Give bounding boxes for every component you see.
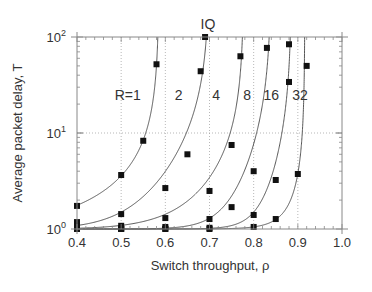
x-tick-label: 0.7 — [200, 235, 218, 250]
data-marker — [286, 41, 292, 47]
series-label: R=1 — [115, 87, 141, 103]
data-marker — [229, 142, 235, 148]
x-axis-label: Switch throughput, ρ — [151, 258, 270, 273]
data-marker — [264, 45, 270, 51]
curve-r-4 — [77, 37, 242, 228]
data-marker — [273, 216, 279, 222]
data-marker — [207, 188, 213, 194]
data-marker — [140, 138, 146, 144]
series-label: 2 — [175, 87, 183, 103]
data-marker — [251, 212, 257, 218]
data-marker — [286, 79, 292, 85]
data-marker — [198, 68, 204, 74]
curve-r-32 — [77, 37, 305, 229]
y-axis-label: Average packet delay, T — [10, 64, 25, 203]
curves — [77, 37, 305, 229]
data-marker — [304, 63, 310, 69]
x-tick-label: 1.0 — [333, 235, 351, 250]
data-marker — [154, 61, 160, 67]
series-label: 32 — [292, 87, 308, 103]
chart-title: IQ — [201, 16, 216, 32]
curve-r-1 — [77, 37, 158, 205]
data-marker — [237, 53, 243, 59]
curve-r-16 — [77, 37, 290, 229]
data-marker — [162, 215, 168, 221]
y-tick-label: 102 — [47, 28, 66, 45]
x-tick-label: 0.9 — [289, 235, 307, 250]
series-label: 16 — [264, 87, 280, 103]
data-marker — [251, 168, 257, 174]
y-tick-label: 100 — [47, 220, 66, 237]
data-marker — [118, 172, 124, 178]
chart-container: IQ 0.40.50.60.70.80.91.0 100101102 R=124… — [0, 0, 372, 292]
data-marker — [273, 177, 279, 183]
data-marker — [229, 204, 235, 210]
y-tick-label: 101 — [47, 124, 66, 141]
data-marker — [295, 171, 301, 177]
x-tick-label: 0.8 — [245, 235, 263, 250]
x-tick-label: 0.4 — [68, 235, 86, 250]
series-label: 8 — [243, 87, 251, 103]
x-tick-label: 0.6 — [156, 235, 174, 250]
series-label: 4 — [212, 87, 220, 103]
data-marker — [184, 151, 190, 157]
x-tick-label: 0.5 — [112, 235, 130, 250]
data-marker — [162, 185, 168, 191]
data-marker — [118, 211, 124, 217]
series-labels: R=12481632 — [115, 87, 308, 103]
curve-r-2 — [77, 37, 206, 226]
data-marker — [207, 216, 213, 222]
